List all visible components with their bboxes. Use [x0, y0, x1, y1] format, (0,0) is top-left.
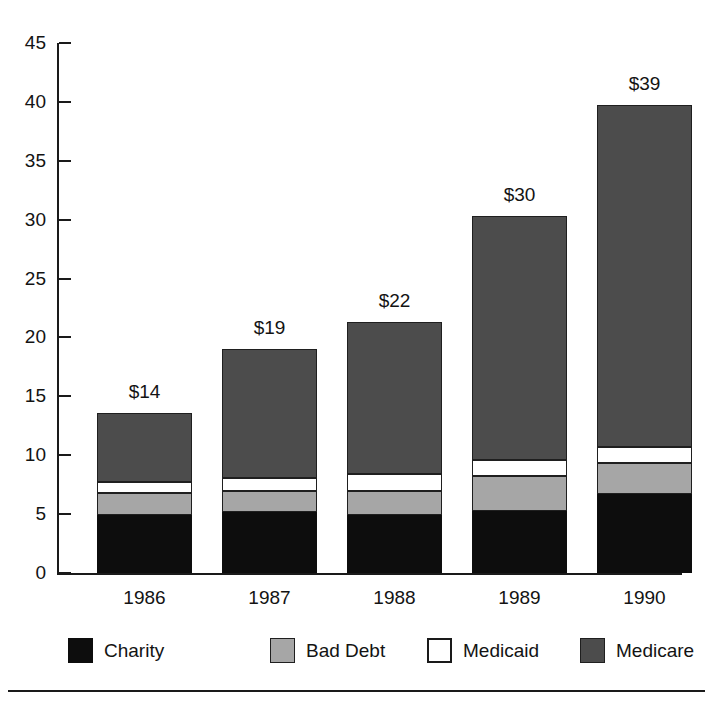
bar-segment-medicaid[interactable] — [97, 482, 192, 493]
legend-label: Medicaid — [463, 641, 539, 660]
y-tick-mark — [59, 101, 71, 103]
chart-figure: 051015202530354045 $14$19$22$30$39 19861… — [0, 0, 713, 705]
bar-segment-medicare[interactable] — [597, 105, 692, 447]
y-tick-mark — [59, 42, 71, 44]
y-axis-tick-label: 45 — [2, 33, 46, 52]
x-axis-category-label: 1987 — [222, 588, 317, 607]
bar-value-label: $39 — [597, 74, 692, 93]
chart-legend: CharityBad DebtMedicaidMedicare — [30, 630, 680, 670]
stacked-bar[interactable] — [472, 216, 567, 573]
bar-segment-medicaid[interactable] — [472, 460, 567, 476]
charity-swatch — [68, 638, 93, 663]
y-axis-line — [57, 43, 59, 575]
bar-value-label: $22 — [347, 291, 442, 310]
stacked-bar[interactable] — [97, 413, 192, 573]
legend-label: Bad Debt — [306, 641, 385, 660]
bar-value-label: $14 — [97, 382, 192, 401]
stacked-bar[interactable] — [222, 349, 317, 573]
stacked-bar[interactable] — [347, 322, 442, 573]
y-axis-tick-label: 35 — [2, 151, 46, 170]
bar-segment-medicaid[interactable] — [347, 474, 442, 490]
bar-segment-medicare[interactable] — [347, 322, 442, 474]
y-axis-tick-label: 40 — [2, 92, 46, 111]
bar-segment-charity[interactable] — [347, 515, 442, 573]
bar-segment-bad-debt[interactable] — [472, 476, 567, 510]
bar-group[interactable]: $22 — [347, 546, 442, 573]
stacked-bar[interactable] — [597, 105, 692, 573]
bar-value-label: $19 — [222, 318, 317, 337]
y-axis-tick-label: 15 — [2, 386, 46, 405]
x-axis-category-label: 1990 — [597, 588, 692, 607]
legend-item-bad-debt[interactable]: Bad Debt — [270, 638, 385, 663]
bar-segment-bad-debt[interactable] — [222, 491, 317, 512]
bar-segment-medicare[interactable] — [97, 413, 192, 482]
bar-segment-medicare[interactable] — [472, 216, 567, 460]
y-axis-tick-label: 5 — [2, 504, 46, 523]
y-axis-tick-label: 30 — [2, 210, 46, 229]
medicaid-swatch — [427, 638, 452, 663]
bar-segment-charity[interactable] — [597, 494, 692, 573]
x-axis-category-label: 1989 — [472, 588, 567, 607]
legend-label: Medicare — [616, 641, 694, 660]
bar-segment-medicare[interactable] — [222, 349, 317, 477]
bar-value-label: $30 — [472, 185, 567, 204]
legend-label: Charity — [104, 641, 164, 660]
y-tick-mark — [59, 160, 71, 162]
y-tick-mark — [59, 336, 71, 338]
x-axis-line — [57, 573, 682, 575]
bar-segment-bad-debt[interactable] — [347, 491, 442, 516]
y-axis-tick-label: 25 — [2, 269, 46, 288]
y-axis-tick-label: 10 — [2, 445, 46, 464]
bar-segment-bad-debt[interactable] — [597, 463, 692, 494]
bar-group[interactable]: $14 — [97, 546, 192, 573]
x-axis-category-label: 1986 — [97, 588, 192, 607]
bar-group[interactable]: $39 — [597, 546, 692, 573]
bar-group[interactable]: $19 — [222, 546, 317, 573]
bar-segment-charity[interactable] — [472, 511, 567, 573]
y-axis-tick-label: 0 — [2, 563, 46, 582]
bar-segment-bad-debt[interactable] — [97, 493, 192, 515]
bar-segment-medicaid[interactable] — [597, 447, 692, 463]
y-axis-tick-label: 20 — [2, 327, 46, 346]
bar-group[interactable]: $30 — [472, 546, 567, 573]
footer-divider-rule — [8, 690, 705, 692]
x-axis-category-label: 1988 — [347, 588, 442, 607]
plot-area: 051015202530354045 $14$19$22$30$39 19861… — [0, 0, 713, 600]
y-tick-mark — [59, 395, 71, 397]
y-tick-mark — [59, 513, 71, 515]
bar-segment-charity[interactable] — [222, 512, 317, 573]
y-tick-mark — [59, 219, 71, 221]
legend-item-charity[interactable]: Charity — [68, 638, 164, 663]
y-tick-mark — [59, 454, 71, 456]
y-tick-mark — [59, 572, 71, 574]
legend-item-medicaid[interactable]: Medicaid — [427, 638, 539, 663]
bad-debt-swatch — [270, 638, 295, 663]
y-tick-mark — [59, 278, 71, 280]
bar-segment-charity[interactable] — [97, 515, 192, 573]
legend-item-medicare[interactable]: Medicare — [580, 638, 694, 663]
medicare-swatch — [580, 638, 605, 663]
bar-segment-medicaid[interactable] — [222, 478, 317, 491]
